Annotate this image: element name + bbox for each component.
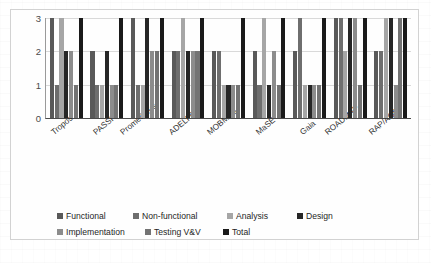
bar-implementation-mobmas — [231, 85, 235, 118]
y-axis-tick-1: 1 — [36, 79, 41, 90]
bar-testing-v-v-passi — [114, 85, 118, 118]
legend-row-2: ImplementationTesting V&VTotal — [57, 224, 357, 240]
bar-implementation-rap-aor — [394, 85, 398, 118]
x-label-cell: MaSE — [248, 128, 289, 174]
bar-total-passi — [119, 18, 123, 118]
y-axis-tick-2: 2 — [36, 46, 41, 57]
bar-design-prometheus — [145, 18, 149, 118]
bar-functional-adelfe — [172, 51, 176, 118]
x-label-cell: Prometheus — [126, 128, 167, 174]
bar-implementation-adelfe — [191, 51, 195, 118]
legend-item-non-functional[interactable]: Non-functional — [133, 211, 227, 221]
legend-label: Design — [306, 211, 333, 221]
bar-group-gaia — [289, 18, 330, 118]
chart-legend: FunctionalNon-functionalAnalysisDesign I… — [57, 208, 357, 240]
x-label-cell: RAP/AOR — [370, 128, 411, 174]
bar-group-passi — [87, 18, 128, 118]
bar-non-functional-mobmas — [217, 51, 221, 118]
legend-swatch-icon — [227, 213, 233, 219]
legend-swatch-icon — [57, 229, 63, 235]
bar-non-functional-mase — [257, 85, 261, 118]
x-label-cell: ADELFE — [167, 128, 208, 174]
bar-design-roadmap — [348, 18, 352, 118]
bar-total-gaia — [322, 18, 326, 118]
legend-item-analysis[interactable]: Analysis — [227, 211, 297, 221]
bar-group-prometheus — [127, 18, 168, 118]
bar-implementation-passi — [110, 85, 114, 118]
bar-implementation-roadmap — [353, 18, 357, 118]
bar-functional-prometheus — [131, 18, 135, 118]
bar-functional-passi — [90, 51, 94, 118]
x-label-cell: MOBMAS — [207, 128, 248, 174]
bar-functional-tropos — [50, 18, 54, 118]
bar-testing-v-v-mobmas — [236, 85, 240, 118]
legend-item-design[interactable]: Design — [297, 211, 333, 221]
legend-swatch-icon — [133, 213, 139, 219]
bar-total-mobmas — [241, 18, 245, 118]
bar-analysis-prometheus — [141, 85, 145, 118]
bar-functional-mase — [253, 51, 257, 118]
bar-design-mobmas — [226, 85, 230, 118]
bar-functional-mobmas — [212, 51, 216, 118]
x-label-cell: Tropos — [45, 128, 86, 174]
legend-swatch-icon — [145, 229, 151, 235]
bar-analysis-rap-aor — [384, 18, 388, 118]
bar-analysis-tropos — [59, 18, 63, 118]
bar-non-functional-gaia — [298, 18, 302, 118]
bar-analysis-mase — [262, 18, 266, 118]
bar-design-rap-aor — [389, 18, 393, 118]
x-label-cell: ROADMAP — [329, 128, 370, 174]
legend-item-implementation[interactable]: Implementation — [57, 227, 145, 237]
y-axis-tick-3: 3 — [36, 13, 41, 24]
bar-non-functional-tropos — [55, 85, 59, 118]
bar-non-functional-passi — [95, 85, 99, 118]
bar-total-adelfe — [200, 18, 204, 118]
legend-item-functional[interactable]: Functional — [57, 211, 133, 221]
bar-group-rap-aor — [371, 18, 412, 118]
bar-implementation-mase — [272, 51, 276, 118]
legend-label: Functional — [66, 211, 106, 221]
bar-non-functional-roadmap — [339, 18, 343, 118]
bar-non-functional-rap-aor — [379, 51, 383, 118]
bar-design-tropos — [64, 51, 68, 118]
bar-implementation-tropos — [69, 51, 73, 118]
x-label-cell: Gaia — [288, 128, 329, 174]
x-axis-category-labels: TroposPASSIPrometheusADELFEMOBMASMaSEGai… — [45, 128, 410, 174]
bar-testing-v-v-mase — [277, 85, 281, 118]
legend-label: Testing V&V — [154, 227, 201, 237]
plot-wrapper: 0123 — [27, 14, 412, 122]
plot-area — [45, 18, 411, 119]
legend-label: Non-functional — [142, 211, 197, 221]
bar-group-mobmas — [208, 18, 249, 118]
bar-total-tropos — [79, 18, 83, 118]
y-axis-tick-0: 0 — [36, 113, 41, 124]
legend-label: Total — [232, 227, 250, 237]
bar-analysis-mobmas — [222, 85, 226, 118]
bar-non-functional-adelfe — [176, 51, 180, 118]
bar-total-roadmap — [363, 18, 367, 118]
legend-swatch-icon — [297, 213, 303, 219]
bar-design-mase — [267, 85, 271, 118]
bar-group-adelfe — [168, 18, 209, 118]
bar-analysis-passi — [100, 85, 104, 118]
bar-design-gaia — [308, 85, 312, 118]
legend-label: Implementation — [66, 227, 125, 237]
bar-testing-v-v-rap-aor — [398, 18, 402, 118]
chart-frame: 0123 TroposPASSIPrometheusADELFEMOBMASMa… — [10, 9, 419, 240]
bar-groups — [46, 18, 411, 118]
x-label-cell: PASSI — [86, 128, 127, 174]
legend-label: Analysis — [236, 211, 268, 221]
legend-item-total[interactable]: Total — [223, 227, 250, 237]
bar-implementation-gaia — [312, 85, 316, 118]
bar-total-rap-aor — [403, 18, 407, 118]
bar-functional-roadmap — [334, 18, 338, 118]
bar-group-roadmap — [330, 18, 371, 118]
bar-analysis-adelfe — [181, 18, 185, 118]
bar-group-tropos — [46, 18, 87, 118]
bar-group-mase — [249, 18, 290, 118]
bar-testing-v-v-gaia — [317, 85, 321, 118]
legend-row-1: FunctionalNon-functionalAnalysisDesign — [57, 208, 357, 224]
legend-item-testing-v-v[interactable]: Testing V&V — [145, 227, 223, 237]
bar-analysis-gaia — [303, 85, 307, 118]
bar-non-functional-prometheus — [136, 85, 140, 118]
